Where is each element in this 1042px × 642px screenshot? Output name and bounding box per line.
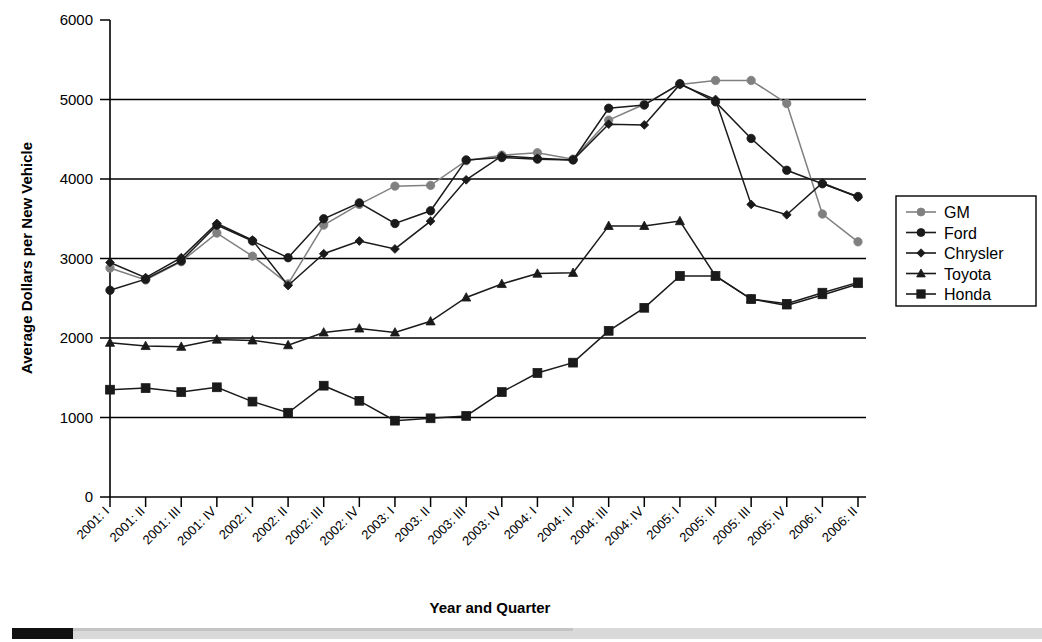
data-point-circle-marker [391, 182, 399, 190]
y-tick-label: 5000 [60, 91, 93, 108]
data-point-square-marker [497, 388, 506, 397]
data-point-square-marker [212, 383, 221, 392]
data-point-square-marker [711, 272, 720, 281]
data-point-circle-marker [640, 101, 648, 109]
data-point-square-marker [355, 396, 364, 405]
data-point-circle-marker [106, 286, 114, 294]
data-point-circle-marker [818, 210, 826, 218]
data-point-square-marker [462, 412, 471, 421]
data-point-square-marker [640, 303, 649, 312]
data-point-circle-marker [917, 229, 925, 237]
y-axis-title: Average Dollars per New Vehicle [18, 142, 35, 374]
data-point-circle-marker [747, 76, 755, 84]
data-point-circle-marker [320, 215, 328, 223]
legend-label: Toyota [944, 266, 991, 283]
data-point-square-marker [177, 388, 186, 397]
y-tick-label: 3000 [60, 250, 93, 267]
scan-artifact-dark-block [12, 628, 73, 639]
scan-artifact-shade [73, 628, 573, 631]
data-point-square-marker [917, 290, 925, 298]
legend-label: Honda [944, 286, 991, 303]
data-point-circle-marker [213, 229, 221, 237]
data-point-circle-marker [917, 208, 925, 216]
chart-background [0, 0, 1042, 642]
line-chart: 0100020003000400050006000 2001: I2001: I… [0, 0, 1042, 642]
legend-label: Chrysler [944, 245, 1004, 262]
data-point-square-marker [782, 299, 791, 308]
data-point-circle-marker [248, 252, 256, 260]
y-tick-label: 2000 [60, 329, 93, 346]
data-point-circle-marker [747, 134, 755, 142]
data-point-circle-marker [391, 219, 399, 227]
y-tick-label: 6000 [60, 11, 93, 28]
data-point-square-marker [604, 326, 613, 335]
y-tick-label: 4000 [60, 170, 93, 187]
chart-figure: 0100020003000400050006000 2001: I2001: I… [0, 0, 1042, 642]
data-point-square-marker [747, 295, 756, 304]
data-point-square-marker [426, 414, 435, 423]
data-point-square-marker [248, 397, 257, 406]
y-tick-label: 0 [85, 488, 93, 505]
data-point-circle-marker [854, 238, 862, 246]
data-point-square-marker [533, 369, 542, 378]
data-point-circle-marker [426, 181, 434, 189]
data-point-circle-marker [426, 207, 434, 215]
data-point-square-marker [141, 384, 150, 393]
data-point-circle-marker [783, 99, 791, 107]
data-point-square-marker [319, 381, 328, 390]
chart-legend: GMFordChryslerToyotaHonda [896, 196, 1036, 306]
data-point-circle-marker [284, 254, 292, 262]
data-point-square-marker [676, 272, 685, 281]
data-point-circle-marker [604, 104, 612, 112]
data-point-square-marker [818, 288, 827, 297]
scan-artifact-strip [12, 628, 1042, 639]
legend-label: Ford [944, 225, 977, 242]
data-point-square-marker [106, 385, 115, 394]
data-point-square-marker [854, 278, 863, 287]
data-point-square-marker [569, 358, 578, 367]
data-point-square-marker [284, 408, 293, 417]
y-tick-label: 1000 [60, 409, 93, 426]
data-point-circle-marker [355, 199, 363, 207]
x-axis-title: Year and Quarter [430, 599, 551, 616]
data-point-circle-marker [711, 76, 719, 84]
data-point-circle-marker [783, 166, 791, 174]
data-point-square-marker [391, 416, 400, 425]
legend-label: GM [944, 204, 970, 221]
data-point-circle-marker [462, 156, 470, 164]
